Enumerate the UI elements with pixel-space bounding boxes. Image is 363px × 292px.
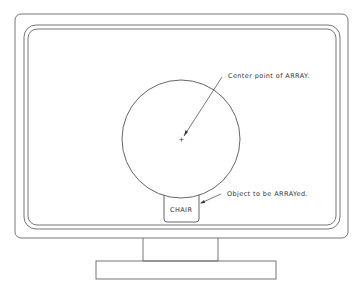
- object-arrow-icon: [200, 200, 205, 204]
- center-marker-icon: +: [179, 136, 185, 144]
- monitor-outer-frame: [15, 14, 348, 238]
- array-diagram: + Center point of ARRAY. CHAIR Object to…: [0, 0, 363, 292]
- stand-base: [96, 261, 276, 279]
- object-label: Object to be ARRAYed.: [227, 190, 308, 198]
- center-leader-line: [184, 77, 222, 136]
- center-point-label: Center point of ARRAY.: [228, 72, 310, 80]
- chair-label: CHAIR: [170, 206, 192, 214]
